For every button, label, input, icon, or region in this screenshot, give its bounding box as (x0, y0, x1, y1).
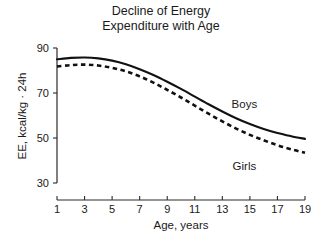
x-tick-label-7: 7 (137, 203, 143, 215)
x-tick-label-5: 5 (109, 203, 115, 215)
x-tick-label-9: 9 (164, 203, 170, 215)
y-tick-label-90: 90 (37, 42, 49, 54)
x-axis: 135791113151719 (54, 196, 311, 215)
series-label-girls: Girls (233, 160, 257, 172)
y-tick-label-30: 30 (37, 177, 49, 189)
y-axis-tick-labels: 30507090 (37, 42, 49, 189)
series-line-girls (57, 65, 305, 153)
x-tick-label-3: 3 (81, 203, 87, 215)
x-tick-label-13: 13 (216, 203, 228, 215)
y-axis: 30507090 (37, 42, 57, 189)
y-tick-label-50: 50 (37, 132, 49, 144)
y-axis-title: EE, kcal/kg · 24h (16, 73, 28, 160)
x-tick-label-19: 19 (299, 203, 311, 215)
x-tick-label-1: 1 (54, 203, 60, 215)
series-label-boys: Boys (232, 98, 258, 110)
series-annotation-labels: BoysGirls (232, 98, 258, 172)
data-series-group (57, 57, 305, 152)
x-axis-title: Age, years (154, 219, 209, 231)
x-tick-label-17: 17 (271, 203, 283, 215)
x-axis-tick-labels: 135791113151719 (54, 203, 311, 215)
x-tick-label-11: 11 (189, 203, 200, 215)
chart-figure: Decline of EnergyExpenditure with Age 30… (0, 0, 322, 243)
y-tick-label-70: 70 (37, 87, 49, 99)
x-tick-label-15: 15 (244, 203, 256, 215)
line-chart-plot: 30507090 135791113151719 BoysGirls Age, … (0, 0, 322, 243)
